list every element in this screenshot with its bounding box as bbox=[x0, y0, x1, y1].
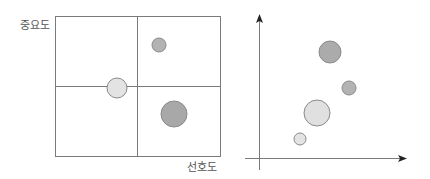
bubble bbox=[304, 100, 330, 126]
x-axis-label: 선호도 bbox=[187, 158, 217, 174]
diagram-canvas bbox=[0, 0, 430, 179]
bubble bbox=[319, 41, 341, 63]
axis-bubble-chart bbox=[245, 14, 407, 170]
bubble bbox=[152, 38, 166, 52]
quadrant-chart bbox=[55, 16, 221, 157]
y-axis-label: 중요도 bbox=[20, 16, 50, 32]
bubble bbox=[294, 133, 306, 145]
bubble bbox=[161, 101, 187, 127]
bubble bbox=[107, 78, 127, 98]
bubble bbox=[342, 81, 356, 95]
